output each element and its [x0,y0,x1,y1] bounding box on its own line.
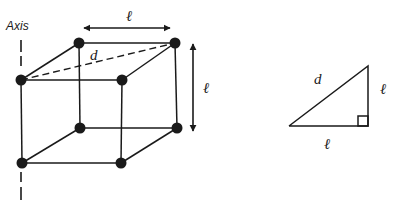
diagram-canvas: Axis d ℓ ℓ d ℓ [0,0,397,211]
axis-label: Axis [5,19,29,33]
cube-vertices [16,38,183,169]
right-angle-marker [358,116,368,126]
top-edge-label: ℓ [126,8,132,24]
diagonal-label: d [90,47,98,63]
side-edge-label: ℓ [203,80,209,96]
horizontal-leg-label: ℓ [324,136,330,152]
vertical-leg-label: ℓ [380,81,386,97]
hypotenuse-label: d [314,71,322,87]
face-diagonal [21,43,175,80]
right-triangle [289,66,368,126]
